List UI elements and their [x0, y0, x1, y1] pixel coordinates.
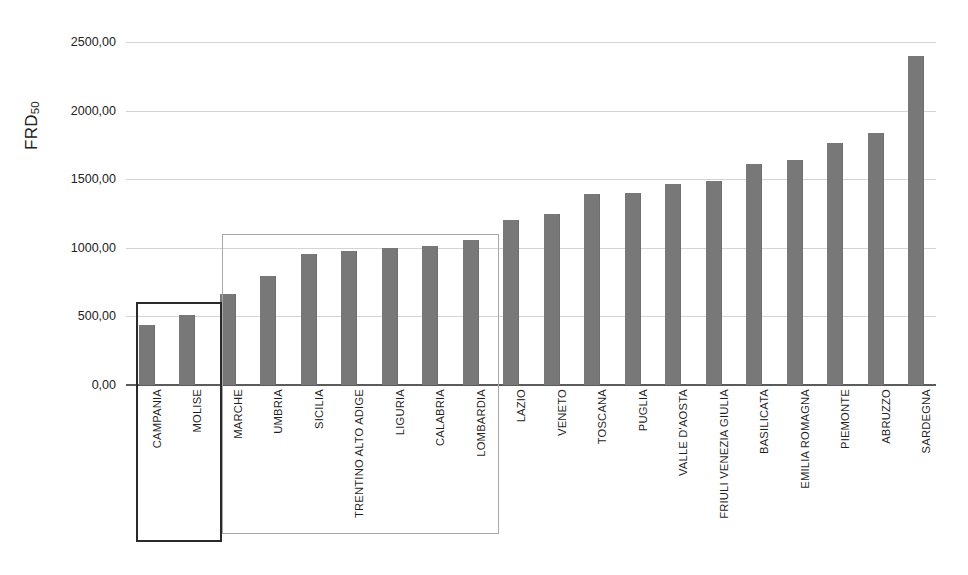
- x-axis-tick-label-text: LOMBARDIA: [475, 389, 487, 457]
- bar: [706, 181, 722, 385]
- x-axis-tick-label: LOMBARDIA: [475, 389, 487, 457]
- x-axis-tick-label: CAMPANIA: [151, 389, 163, 448]
- y-axis-tick-label: 500,00: [24, 309, 116, 323]
- x-axis-tick-label-text: VALLE D'AOSTA: [677, 389, 689, 476]
- x-axis-tick-label: MARCHE: [232, 389, 244, 439]
- gridline: [126, 179, 936, 180]
- x-axis-tick-label: MOLISE: [191, 389, 203, 432]
- y-axis-tick-label: 0,00: [24, 378, 116, 392]
- x-axis-tick-label: FRIULI VENEZIA GIULIA: [718, 389, 730, 519]
- x-axis-tick-label-text: ABRUZZO: [880, 389, 892, 444]
- x-axis-tick-label: VENETO: [556, 389, 568, 436]
- x-axis-tick-label: TOSCANA: [596, 389, 608, 444]
- bar: [503, 220, 519, 385]
- bar: [625, 193, 641, 385]
- x-axis-tick-label-text: MOLISE: [191, 389, 203, 432]
- x-axis-tick-label-text: EMILIA ROMAGNA: [799, 389, 811, 489]
- bar: [787, 160, 803, 385]
- bar: [827, 143, 843, 385]
- x-axis-tick-label: CALABRIA: [434, 389, 446, 446]
- x-axis-tick-label-text: UMBRIA: [272, 389, 284, 434]
- x-axis-tick-label: SICILIA: [313, 389, 325, 429]
- bar: [665, 184, 681, 385]
- bar: [584, 194, 600, 385]
- x-axis-tick-label-text: PIEMONTE: [839, 389, 851, 449]
- bar: [746, 164, 762, 385]
- x-axis-tick-label: BASILICATA: [758, 389, 770, 454]
- gridline: [126, 42, 936, 43]
- x-axis-tick-label: UMBRIA: [272, 389, 284, 434]
- bar: [544, 214, 560, 385]
- bar: [868, 133, 884, 385]
- bar: [908, 56, 924, 385]
- y-axis-tick-label: 1000,00: [24, 241, 116, 255]
- x-axis-tick-label-text: LIGURIA: [394, 389, 406, 435]
- x-axis-tick-label: SARDEGNA: [920, 389, 932, 453]
- x-axis-tick-label: PIEMONTE: [839, 389, 851, 449]
- y-axis-tick-labels: 2500,002000,001500,001000,00500,000,00: [24, 0, 116, 575]
- y-axis-tick-label: 2000,00: [24, 104, 116, 118]
- x-axis-tick-label-text: VENETO: [556, 389, 568, 436]
- y-axis-tick-label: 2500,00: [24, 35, 116, 49]
- x-axis-tick-label-text: TOSCANA: [596, 389, 608, 444]
- y-axis-tick-label: 1500,00: [24, 172, 116, 186]
- x-axis-tick-label-text: TRENTINO ALTO ADIGE: [353, 389, 365, 518]
- x-axis-tick-label-text: FRIULI VENEZIA GIULIA: [718, 389, 730, 519]
- bar-chart: FRD50 2500,002000,001500,001000,00500,00…: [0, 0, 968, 575]
- x-axis-tick-label: LIGURIA: [394, 389, 406, 435]
- x-axis-tick-label-text: SICILIA: [313, 389, 325, 429]
- x-axis-tick-label-text: LAZIO: [515, 389, 527, 422]
- x-axis-tick-label: PUGLIA: [637, 389, 649, 431]
- x-axis-tick-label: VALLE D'AOSTA: [677, 389, 689, 476]
- gridline: [126, 111, 936, 112]
- x-axis-tick-label: EMILIA ROMAGNA: [799, 389, 811, 489]
- x-axis-tick-label: LAZIO: [515, 389, 527, 422]
- x-axis-tick-label-text: CAMPANIA: [151, 389, 163, 448]
- x-axis-tick-labels: CAMPANIAMOLISEMARCHEUMBRIASICILIATRENTIN…: [126, 385, 936, 575]
- x-axis-tick-label-text: SARDEGNA: [920, 389, 932, 453]
- x-axis-tick-label-text: MARCHE: [232, 389, 244, 439]
- x-axis-tick-label-text: CALABRIA: [434, 389, 446, 446]
- x-axis-tick-label: ABRUZZO: [880, 389, 892, 444]
- x-axis-tick-label-text: BASILICATA: [758, 389, 770, 454]
- x-axis-tick-label-text: PUGLIA: [637, 389, 649, 431]
- x-axis-tick-label: TRENTINO ALTO ADIGE: [353, 389, 365, 518]
